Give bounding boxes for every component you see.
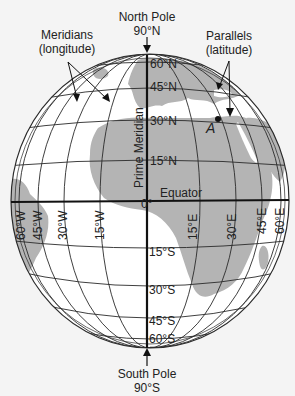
lon-label-15w: 15°W — [93, 210, 107, 240]
south-pole-arrow-icon — [143, 348, 151, 366]
south-pole-label: South Pole — [118, 367, 177, 381]
prime-meridian-label: Prime Meridian — [132, 107, 146, 188]
meridians-sublabel: (longitude) — [39, 42, 96, 56]
lat-label-60n: 60°N — [150, 57, 177, 71]
lat-label-30n: 30°N — [150, 114, 177, 128]
north-pole-arrow-icon — [143, 37, 151, 53]
lon-label-60w: 60°W — [14, 210, 28, 240]
lon-label-15e: 15°E — [186, 214, 200, 240]
lat-label-30s: 30°S — [149, 283, 175, 297]
meridians-label: Meridians — [41, 28, 93, 42]
lat-label-45s: 45°S — [149, 314, 175, 328]
equator-label: Equator — [160, 186, 202, 200]
lat-label-15n: 15°N — [150, 154, 177, 168]
lat-label-45n: 45°N — [150, 80, 177, 94]
globe-diagram: 60°N 45°N 30°N 15°N 15°S 30°S 45°S 60°S … — [0, 0, 295, 396]
lon-label-45w: 45°W — [31, 210, 45, 240]
parallels-label: Parallels — [206, 29, 252, 43]
zero-degree-label: 0° — [141, 197, 153, 211]
parallels-sublabel: (latitude) — [206, 43, 253, 57]
point-a-label: A — [205, 120, 215, 136]
lon-label-30e: 30°E — [225, 214, 239, 240]
lat-label-15s: 15°S — [149, 245, 175, 259]
lat-label-60s: 60°S — [149, 332, 175, 346]
lon-label-30w: 30°W — [56, 210, 70, 240]
point-a-marker — [215, 116, 221, 122]
north-pole-label: North Pole — [119, 10, 176, 24]
lon-label-45e: 45°E — [255, 208, 269, 234]
south-pole-lat: 90°S — [134, 381, 160, 395]
lon-label-60e: 60°E — [273, 208, 287, 234]
north-pole-lat: 90°N — [134, 24, 161, 38]
